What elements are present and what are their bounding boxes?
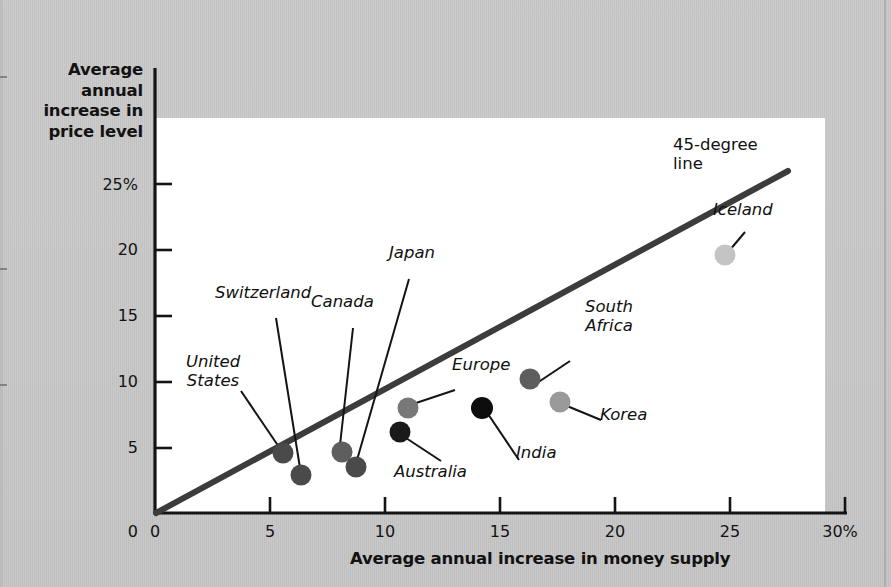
x-tick-marks: [270, 497, 845, 513]
data-point-switzerland[interactable]: [291, 465, 312, 486]
figure-container: Average annual increase in price level A…: [0, 0, 891, 587]
label-australia: Australia: [394, 462, 467, 481]
label-korea: Korea: [600, 405, 647, 424]
data-point-europe[interactable]: [398, 398, 419, 419]
data-point-iceland[interactable]: [715, 245, 736, 266]
label-united-states: United States: [167, 352, 259, 390]
label-switzerland: Switzerland: [215, 283, 311, 302]
label-iceland: Iceland: [713, 200, 773, 219]
y-tick-marks: [155, 184, 172, 448]
leader-lines: [241, 232, 745, 468]
data-point-australia[interactable]: [390, 422, 411, 443]
label-south-africa: South Africa: [563, 297, 655, 335]
label-india: India: [516, 443, 557, 462]
data-point-japan[interactable]: [346, 457, 367, 478]
data-point-united-states[interactable]: [273, 443, 294, 464]
data-point-south-africa[interactable]: [520, 369, 541, 390]
forty-five-degree-label: 45-degree line: [673, 135, 783, 173]
forty-five-degree-line: [156, 171, 788, 513]
label-japan: Japan: [389, 243, 435, 262]
chart-svg: [0, 0, 891, 587]
data-point-india[interactable]: [471, 397, 493, 419]
label-canada: Canada: [311, 292, 374, 311]
data-point-korea[interactable]: [550, 392, 571, 413]
label-europe: Europe: [452, 355, 510, 374]
